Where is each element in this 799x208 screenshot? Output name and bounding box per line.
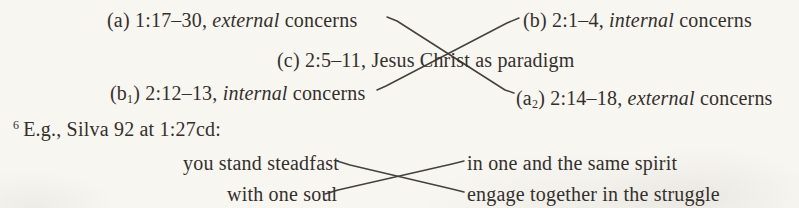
outline-item-c: (c) 2:5–11, Jesus Christ as paradigm	[277, 48, 575, 72]
outline-item-b1-emphasis: internal	[223, 82, 288, 104]
outline-item-b-open: (b	[523, 9, 540, 31]
quote-line-struggle: engage together in the struggle	[467, 182, 720, 206]
outline-item-a-tail: concerns	[280, 9, 358, 31]
scanned-footnote-page: (a) 1:17–30, external concerns (b) 2:1–4…	[0, 0, 799, 208]
outline-item-a2-subscript: 2	[532, 97, 538, 111]
outline-item-b1-tail: concerns	[288, 82, 366, 104]
outline-item-b1-subscript: 1	[127, 92, 133, 106]
quote-line-steadfast: you stand steadfast	[183, 151, 339, 175]
outline-item-a2-ref: ) 2:14–18,	[538, 87, 627, 109]
footnote-text: E.g., Silva 92 at 1:27cd:	[23, 118, 221, 140]
outline-item-b-tail: concerns	[674, 9, 752, 31]
outline-item-b-emphasis: internal	[609, 9, 674, 31]
connector-soul-to-spirit	[325, 161, 464, 194]
outline-item-c-ref: ) 2:5–11, Jesus Christ as paradigm	[293, 49, 575, 71]
quote-line-spirit: in one and the same spirit	[467, 151, 677, 175]
outline-item-a2-emphasis: external	[628, 87, 695, 109]
outline-item-a: (a) 1:17–30, external concerns	[107, 8, 357, 32]
outline-item-a2-open: (a	[516, 87, 532, 109]
footnote-marker: 6	[13, 118, 19, 132]
footnote-citation: 6E.g., Silva 92 at 1:27cd:	[13, 117, 221, 141]
outline-item-a-open: (a	[107, 9, 123, 31]
outline-item-b1: (b1) 2:12–13, internal concerns	[110, 81, 366, 105]
outline-item-b1-ref: ) 2:12–13,	[133, 82, 222, 104]
outline-item-b1-open: (b	[110, 82, 127, 104]
outline-item-a2-tail: concerns	[695, 87, 773, 109]
outline-item-a2: (a2) 2:14–18, external concerns	[516, 86, 773, 110]
outline-item-b-ref: ) 2:1–4,	[540, 9, 609, 31]
outline-item-c-open: (c	[277, 49, 293, 71]
quote-line-soul: with one soul	[227, 182, 337, 206]
outline-item-a-emphasis: external	[212, 9, 279, 31]
outline-item-a-ref: ) 1:17–30,	[123, 9, 212, 31]
outline-item-b: (b) 2:1–4, internal concerns	[523, 8, 752, 32]
